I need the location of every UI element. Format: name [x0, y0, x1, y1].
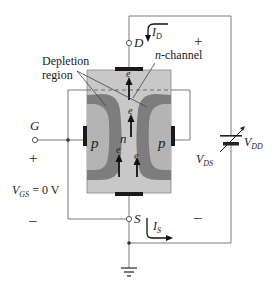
vdd-label: VDD — [244, 135, 263, 151]
source-terminal — [126, 216, 131, 221]
vgs-label: VGS = 0 V — [12, 183, 60, 199]
vds-plus-sign: + — [194, 33, 202, 49]
vgs-plus-sign: + — [29, 150, 37, 166]
depletion-label-line1: Depletion — [42, 54, 89, 68]
is-arrow-head — [166, 235, 173, 241]
source-contact — [115, 192, 143, 196]
source-label: S — [134, 211, 141, 226]
p-label-right: p — [157, 135, 166, 151]
vds-minus-sign: – — [193, 209, 202, 225]
electron-label-2: e — [128, 105, 133, 116]
source-junction-dot — [127, 241, 131, 245]
drain-terminal — [126, 40, 131, 45]
n-label: n — [120, 131, 127, 146]
drain-label: D — [133, 35, 144, 50]
gate-contact-right — [171, 126, 175, 146]
p-label-left: p — [90, 135, 99, 151]
electron-label-1: e — [126, 68, 131, 79]
vdd-battery — [220, 126, 245, 152]
gate-label: G — [30, 118, 40, 133]
is-label: IS — [152, 219, 161, 235]
jfet-diagram: e e e e p p n Depletion region n-channel… — [0, 0, 278, 285]
id-arrow-head — [145, 35, 151, 42]
gate-junction-dot — [66, 138, 70, 142]
n-channel-label: n-channel — [155, 48, 203, 62]
gate-terminal — [32, 137, 37, 142]
ground-icon — [121, 268, 137, 276]
electron-label-4: e — [134, 150, 139, 161]
depletion-label-line2: region — [42, 68, 73, 82]
gate-contact-left — [83, 126, 87, 146]
vds-label: VDS — [196, 152, 213, 168]
vgs-minus-sign: – — [28, 212, 37, 228]
id-label: ID — [151, 25, 162, 41]
